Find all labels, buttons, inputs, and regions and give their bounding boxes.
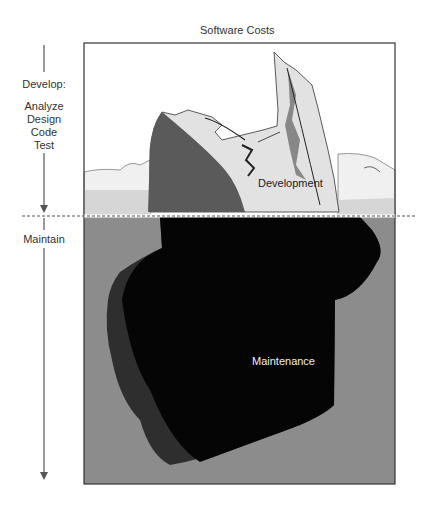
step-analyze: Analyze [0, 100, 88, 113]
ice-shelf-right [338, 198, 395, 215]
maintenance-label: Maintenance [252, 355, 352, 368]
diagram-title: Software Costs [200, 24, 340, 37]
step-design: Design [0, 113, 88, 126]
develop-arrowhead-icon [40, 205, 48, 213]
iceberg-diagram [0, 0, 426, 507]
step-code: Code [0, 126, 88, 139]
development-label: Development [258, 177, 358, 190]
maintain-phase-label: Maintain [0, 233, 88, 246]
ice-shelf-left [84, 190, 150, 215]
maintain-arrowhead-icon [40, 472, 48, 480]
step-test: Test [0, 139, 88, 152]
develop-phase-label: Develop: [0, 78, 88, 91]
develop-steps: Analyze Design Code Test [0, 100, 88, 152]
